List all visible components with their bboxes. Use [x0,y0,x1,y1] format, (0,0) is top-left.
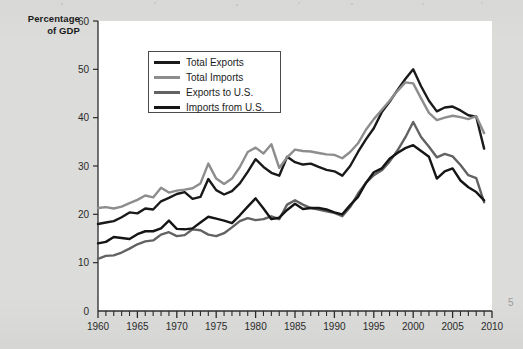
y-axis-tick-label: 60 [78,16,90,27]
legend-color-swatch [154,76,180,79]
chart-legend: Total ExportsTotal ImportsExports to U.S… [148,51,281,113]
legend-item-label: Total Imports [186,72,243,83]
legend-item-total-exports: Total Exports [154,55,280,69]
legend-color-swatch [154,106,180,109]
x-axis-tick-label: 2010 [481,321,504,332]
page-edge-artifact: 5 [508,297,514,308]
legend-item-label: Exports to U.S. [186,87,253,98]
series-line-exports-to-u-s [98,122,484,259]
legend-item-imports-from-u-s: Imports from U.S. [154,100,280,114]
legend-item-label: Imports from U.S. [186,102,264,113]
x-axis-tick-label: 1995 [363,321,386,332]
legend-item-exports-to-u-s: Exports to U.S. [154,85,280,99]
x-axis-tick-label: 2005 [441,321,464,332]
legend-item-label: Total Exports [186,57,244,68]
y-axis-tick-label: 20 [78,209,90,220]
page-background: Percentage of GDP 0102030405060196019651… [0,0,523,349]
x-axis-tick-label: 1985 [284,321,307,332]
y-axis-tick-label: 30 [78,161,90,172]
x-axis-tick-label: 1980 [244,321,267,332]
legend-color-swatch [154,61,180,64]
legend-item-total-imports: Total Imports [154,70,280,84]
line-chart: 0102030405060196019651970197519801985199… [0,0,523,349]
legend-color-swatch [154,91,180,94]
x-axis-tick-label: 1965 [126,321,149,332]
x-axis-tick-label: 1960 [87,321,110,332]
y-axis-tick-label: 50 [78,64,90,75]
y-axis-tick-label: 10 [78,257,90,268]
chart-axes: 0102030405060196019651970197519801985199… [78,16,504,333]
x-axis-tick-label: 1975 [205,321,228,332]
x-axis-tick-label: 1970 [166,321,189,332]
x-axis-tick-label: 1990 [323,321,346,332]
y-axis-tick-label: 40 [78,112,90,123]
y-axis-tick-label: 0 [83,306,89,317]
x-axis-tick-label: 2000 [402,321,425,332]
